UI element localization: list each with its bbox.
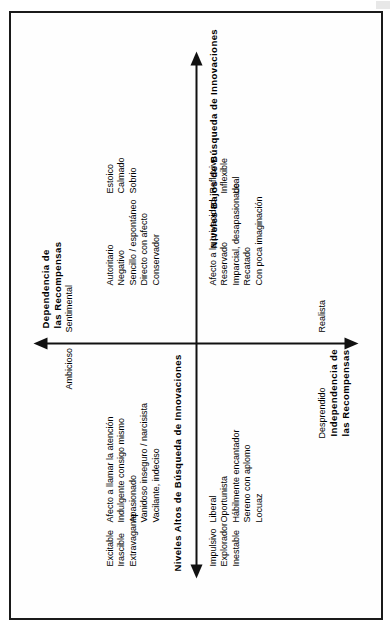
trait-item: Afecto a llamar la atención: [104, 403, 115, 522]
trait-item: Sobrio: [127, 157, 138, 193]
horizontal-axis: [195, 63, 197, 566]
trait-item: Reflexivo: [207, 156, 218, 193]
trait-item: Estoico: [104, 157, 115, 193]
trait-item: Sereno con aplomo: [241, 429, 252, 522]
axis-title-reward-dependence-line2: las Recompensas: [51, 241, 63, 328]
trait-item: Vanidoso inseguro / narcisista: [138, 403, 149, 522]
arrow-up-icon: [33, 337, 47, 349]
diagram-frame: Niveles Altos de Búsqueda de Innovacione…: [9, 11, 383, 620]
axis-title-high-novelty-seeking: Niveles Altos de Búsqueda de Innovacione…: [171, 354, 183, 571]
arrow-down-icon: [344, 337, 358, 349]
trait-item: Leal: [230, 156, 241, 193]
axis-title-reward-independence-line2: las Recompensas: [339, 350, 351, 436]
pole-label-realista: Realista: [316, 299, 327, 332]
arrow-left-icon: [190, 564, 202, 578]
trait-group-lower-left-b: LiberalOportunistaHábilmente encantadorS…: [207, 429, 264, 522]
axis-title-reward-independence-line1: Independencia de: [327, 350, 339, 436]
trait-group-upper-right-b: EstoicoCalmadoSobrio: [104, 157, 138, 193]
vertical-axis: [45, 342, 345, 344]
axis-title-reward-dependence: Dependencia de las Recompensas: [39, 241, 63, 328]
trait-item: Impulsivo: [207, 522, 218, 566]
pole-label-ambicioso: Ambicioso: [63, 347, 74, 389]
diagram-canvas: Niveles Altos de Búsqueda de Innovacione…: [11, 13, 381, 618]
trait-item: Indulgente consigo mismo: [115, 403, 126, 522]
trait-group-upper-left-b: Afecto a llamar la atenciónIndulgente co…: [104, 403, 161, 522]
trait-item: Imparcial, desapasionado: [230, 182, 241, 285]
trait-item: Directo con afecto: [138, 199, 149, 285]
scan-corner-artifact: [376, 1, 390, 9]
trait-item: Sencillo / espontáneo: [127, 199, 138, 285]
trait-item: Negativo: [115, 199, 126, 285]
trait-item: Con poca imaginación: [253, 182, 264, 285]
trait-group-lower-right-b: ReflexivoInflexibleLeal: [207, 156, 241, 193]
trait-item: Recatado: [241, 182, 252, 285]
trait-group-lower-right-a: Afecto a la privacidadReservadoImparcial…: [207, 182, 264, 285]
trait-item: Hábilmente encantador: [230, 429, 241, 522]
pole-label-desprendido: Desprendido: [316, 387, 327, 438]
trait-item: Inestable: [230, 522, 241, 566]
trait-item: Calmado: [115, 157, 126, 193]
scan-top-margin: [9, 0, 383, 11]
trait-item: Vacilante, indeciso: [150, 403, 161, 522]
arrow-right-icon: [190, 51, 202, 65]
axis-title-reward-dependence-line1: Dependencia de: [39, 241, 51, 328]
trait-item: Explorador: [218, 522, 229, 566]
trait-item: Liberal: [207, 429, 218, 522]
trait-group-lower-left-a: ImpulsivoExploradorInestable: [207, 522, 241, 566]
axis-title-reward-independence: Independencia de las Recompensas: [327, 350, 351, 436]
trait-item: Oportunista: [218, 429, 229, 522]
trait-item: Locuaz: [253, 429, 264, 522]
trait-item: Reservado: [218, 182, 229, 285]
trait-item: Apasionado: [127, 403, 138, 522]
trait-item: Autoritario: [104, 199, 115, 285]
trait-group-upper-right-a: AutoritarioNegativoSencillo / espontáneo…: [104, 199, 161, 285]
pole-label-sentimental: Sentimental: [63, 284, 74, 332]
trait-item: Inflexible: [218, 156, 229, 193]
trait-item: Afecto a la privacidad: [207, 182, 218, 285]
trait-item: Conservador: [150, 199, 161, 285]
